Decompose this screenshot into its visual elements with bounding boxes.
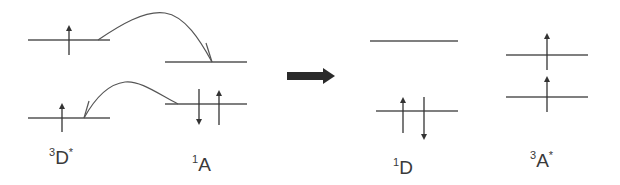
electron-transfer-curve-lower [84,82,178,118]
spin-down-arrow-icon [196,89,202,125]
label-1d: 1D [393,158,413,177]
label-star: * [69,146,73,158]
label-superscript: 3 [530,149,536,161]
energy-transfer-diagram [0,0,620,185]
donor-3d-star-levels [28,25,110,132]
donor-1d-levels [370,41,458,140]
spin-up-arrow-icon [544,33,550,70]
spin-down-arrow-icon [421,97,427,140]
label-superscript: 1 [192,153,198,165]
label-superscript: 3 [49,146,55,158]
label-main: D [399,157,413,178]
label-3a-star: 3A* [530,151,553,170]
label-main: A [536,150,549,171]
label-main: A [198,154,211,175]
spin-up-arrow-icon [216,90,222,125]
right-arrow-icon [287,68,335,84]
spin-up-arrow-icon [544,76,550,112]
spin-up-arrow-icon [400,97,406,133]
acceptor-1a-levels [165,62,247,125]
label-main: D [55,147,69,168]
label-star: * [549,149,553,161]
label-3d-star: 3D* [49,148,73,167]
electron-transfer-curve-upper [98,13,212,62]
acceptor-3a-star-levels [506,33,588,112]
label-superscript: 1 [393,156,399,168]
label-1a: 1A [192,155,211,174]
